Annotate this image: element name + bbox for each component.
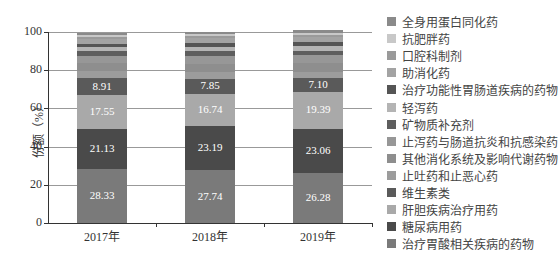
data-label: 8.91 bbox=[77, 80, 127, 92]
bar-segment: 23.19 bbox=[185, 126, 235, 170]
data-label: 17.55 bbox=[77, 105, 127, 117]
legend-label: 全身用蛋白同化药 bbox=[402, 13, 498, 30]
bar-segment bbox=[185, 51, 235, 55]
x-tick-label: 2017年 bbox=[72, 227, 132, 245]
legend-swatch-icon bbox=[387, 222, 396, 231]
legend-item: 助消化药 bbox=[387, 64, 558, 81]
bar-segment: 8.91 bbox=[77, 78, 127, 95]
legend-swatch-icon bbox=[387, 120, 396, 129]
bar-segment bbox=[77, 39, 127, 44]
bar-segment bbox=[293, 37, 343, 42]
bar-segment: 23.06 bbox=[293, 129, 343, 173]
legend-label: 止吐药和止恶心药 bbox=[402, 167, 498, 184]
data-label: 16.74 bbox=[185, 103, 235, 115]
data-label: 28.33 bbox=[77, 189, 127, 201]
bar-segment bbox=[185, 38, 235, 43]
bar-2019: 26.2823.0619.397.10 bbox=[293, 32, 343, 223]
bar-segment bbox=[293, 30, 343, 33]
bar-segment bbox=[185, 64, 235, 72]
legend-swatch-icon bbox=[387, 103, 396, 112]
x-tick-label: 2018年 bbox=[180, 227, 240, 245]
bar-segment bbox=[77, 47, 127, 52]
bar-segment bbox=[293, 46, 343, 51]
x-axis-line bbox=[48, 223, 372, 224]
bar-segment: 19.39 bbox=[293, 92, 343, 129]
legend-swatch-icon bbox=[387, 34, 396, 43]
data-label: 27.74 bbox=[185, 190, 235, 202]
legend-swatch-icon bbox=[387, 205, 396, 214]
legend-item: 其他消化系统及影响代谢药物 bbox=[387, 150, 558, 167]
legend-swatch-icon bbox=[387, 68, 396, 77]
legend-label: 糖尿病用药 bbox=[402, 218, 462, 235]
legend-label: 轻泻药 bbox=[402, 99, 438, 116]
legend-label: 其他消化系统及影响代谢药物 bbox=[402, 150, 558, 167]
legend-label: 矿物质补充剂 bbox=[402, 116, 474, 133]
x-tick-mark bbox=[156, 223, 157, 227]
legend-item: 肝胆疾病治疗用药 bbox=[387, 201, 558, 218]
legend-label: 口腔科制剂 bbox=[402, 47, 462, 64]
bar-segment: 26.28 bbox=[293, 173, 343, 223]
bar-segment bbox=[185, 36, 235, 38]
legend-item: 治疗胃酸相关疾病的药物 bbox=[387, 235, 558, 252]
bar-segment: 7.10 bbox=[293, 78, 343, 92]
bar-segment: 17.55 bbox=[77, 95, 127, 129]
x-tick-mark bbox=[264, 223, 265, 227]
bar-segment bbox=[293, 72, 343, 78]
data-label: 23.19 bbox=[185, 141, 235, 153]
y-tick-label: 80 bbox=[2, 62, 42, 77]
legend-label: 抗肥胖药 bbox=[402, 30, 450, 47]
bar-segment bbox=[293, 63, 343, 72]
y-tick-label: 60 bbox=[2, 100, 42, 115]
y-axis-line bbox=[48, 32, 49, 223]
data-label: 21.13 bbox=[77, 142, 127, 154]
legend-swatch-icon bbox=[387, 137, 396, 146]
legend-swatch-icon bbox=[387, 171, 396, 180]
bar-segment bbox=[185, 56, 235, 64]
legend-item: 矿物质补充剂 bbox=[387, 116, 558, 133]
bar-segment bbox=[185, 32, 235, 34]
legend-item: 全身用蛋白同化药 bbox=[387, 13, 558, 30]
bar-segment bbox=[185, 43, 235, 46]
legend-label: 止泻药与肠道抗炎和抗感染药 bbox=[402, 133, 558, 150]
bar-segment: 21.13 bbox=[77, 129, 127, 169]
legend: 全身用蛋白同化药抗肥胖药口腔科制剂助消化药治疗功能性胃肠道疾病的药物轻泻药矿物质… bbox=[387, 13, 558, 252]
bar-segment bbox=[77, 51, 127, 55]
legend-label: 治疗胃酸相关疾病的药物 bbox=[402, 235, 534, 252]
bar-segment bbox=[77, 56, 127, 64]
y-tick-label: 100 bbox=[2, 24, 42, 39]
data-label: 26.28 bbox=[293, 191, 343, 203]
data-label: 7.10 bbox=[293, 78, 343, 90]
data-label: 19.39 bbox=[293, 103, 343, 115]
legend-item: 抗肥胖药 bbox=[387, 30, 558, 47]
bar-segment bbox=[77, 71, 127, 78]
legend-label: 维生素类 bbox=[402, 184, 450, 201]
x-tick-mark bbox=[372, 223, 373, 227]
legend-label: 助消化药 bbox=[402, 64, 450, 81]
legend-item: 治疗功能性胃肠道疾病的药物 bbox=[387, 81, 558, 98]
legend-swatch-icon bbox=[387, 188, 396, 197]
y-tick-label: 40 bbox=[2, 139, 42, 154]
y-tick-label: 20 bbox=[2, 177, 42, 192]
legend-item: 糖尿病用药 bbox=[387, 218, 558, 235]
bar-segment bbox=[77, 33, 127, 35]
legend-item: 轻泻药 bbox=[387, 98, 558, 115]
x-tick-label: 2019年 bbox=[288, 227, 348, 245]
data-label: 7.85 bbox=[185, 79, 235, 91]
bar-segment bbox=[293, 33, 343, 35]
bar-2018: 27.7423.1916.747.85 bbox=[185, 32, 235, 223]
bar-segment bbox=[293, 42, 343, 45]
legend-swatch-icon bbox=[387, 85, 396, 94]
legend-swatch-icon bbox=[387, 154, 396, 163]
bar-segment bbox=[77, 44, 127, 47]
legend-swatch-icon bbox=[387, 51, 396, 60]
bar-segment bbox=[293, 51, 343, 56]
data-label: 23.06 bbox=[293, 144, 343, 156]
legend-item: 口腔科制剂 bbox=[387, 47, 558, 64]
bar-segment bbox=[185, 47, 235, 52]
legend-label: 肝胆疾病治疗用药 bbox=[402, 201, 498, 218]
legend-item: 止吐药和止恶心药 bbox=[387, 167, 558, 184]
bar-segment: 7.85 bbox=[185, 79, 235, 94]
bar-segment bbox=[293, 35, 343, 37]
legend-swatch-icon bbox=[387, 239, 396, 248]
y-tick-label: 0 bbox=[2, 215, 42, 230]
